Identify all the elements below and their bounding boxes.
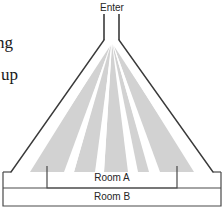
room-a-label: Room A (94, 172, 130, 183)
entrance-corridor (104, 14, 119, 40)
evacuation-diagram: Room A Room B Enter (0, 0, 224, 208)
figure-canvas: ng up Room A (0, 0, 224, 208)
room-b-label: Room B (94, 191, 130, 202)
enter-label: Enter (100, 2, 125, 13)
flow-region-group (28, 44, 196, 172)
